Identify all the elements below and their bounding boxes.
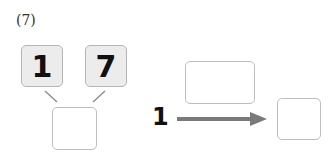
answer-box-decomposition[interactable] xyxy=(52,107,97,150)
right-connector-line xyxy=(93,91,105,102)
left-connector-line xyxy=(45,91,57,102)
right-arrow-icon xyxy=(177,112,267,126)
given-number: 1 xyxy=(152,103,169,131)
answer-box-operation[interactable] xyxy=(185,61,255,104)
answer-box-result[interactable] xyxy=(277,98,321,140)
